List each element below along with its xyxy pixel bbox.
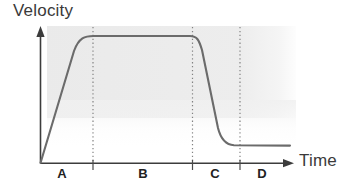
y-axis-arrowhead	[36, 26, 44, 37]
x-axis-arrowhead	[283, 159, 294, 167]
segment-dividers	[93, 27, 240, 161]
y-axis	[36, 26, 44, 163]
velocity-curve	[41, 36, 291, 163]
x-axis	[40, 159, 294, 167]
chart-svg	[0, 0, 349, 190]
axis-ticks	[93, 160, 240, 170]
velocity-time-chart: Velocity Time A B C D	[0, 0, 349, 190]
